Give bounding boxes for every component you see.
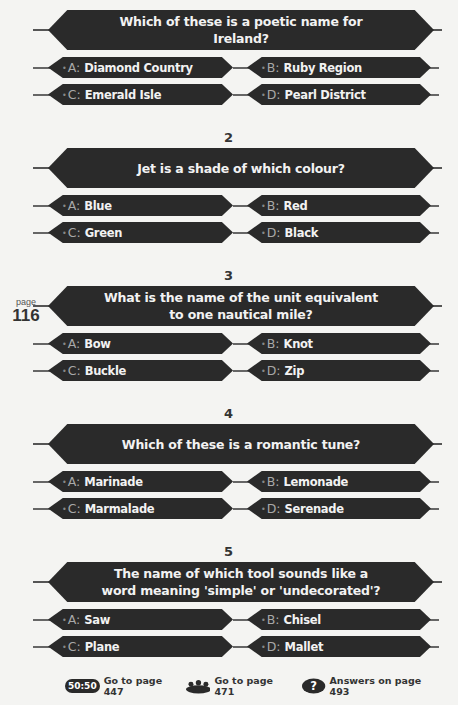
answer-text: Buckle [85,364,126,378]
answer-option-c[interactable]: •C:Marmalade [33,498,239,519]
answer-text: Ruby Region [284,61,362,75]
answer-text: Bow [84,337,110,351]
answer-option-b[interactable]: •B:Red [233,195,439,216]
answer-option-c[interactable]: •C:Plane [33,636,239,657]
question-text: The name of which tool sounds like a wor… [48,565,434,599]
answer-letter: •B: [261,612,280,627]
answer-letter: •C: [62,363,81,378]
answer-option-d[interactable]: •D:Pearl District [233,84,439,105]
question-text: What is the name of the unit equivalent … [48,289,434,323]
question-number: 2 [0,130,458,145]
answer-text: Zip [285,364,305,378]
footer: 50:50 Go to page 447 Go to page 471 ? An… [65,676,445,696]
answer-letter: •D: [261,501,281,516]
answer-text: Knot [284,337,313,351]
audience-icon [186,678,211,694]
question-text: Which of these is a romantic tune? [72,436,410,453]
answer-letter: •B: [261,474,280,489]
answer-option-d[interactable]: •D:Zip [233,360,439,381]
question-number: 5 [0,544,458,559]
question-number: 4 [0,406,458,421]
answer-text: Blue [84,199,112,213]
answer-letter: •A: [62,60,80,75]
answer-letter: •D: [261,639,281,654]
answers-text: Answers on page 493 [330,675,425,697]
answer-option-b[interactable]: •B:Lemonade [233,471,439,492]
question-text: Which of these is a poetic name for Irel… [48,13,434,47]
question-banner: Which of these is a romantic tune? [33,424,442,464]
answer-option-b[interactable]: •B:Ruby Region [233,57,439,78]
answer-option-b[interactable]: •B:Chisel [233,609,439,630]
question-number: 3 [0,268,458,283]
answer-letter: •C: [62,87,81,102]
answer-option-b[interactable]: •B:Knot [233,333,439,354]
answer-text: Saw [84,613,110,627]
question-banner: Jet is a shade of which colour? [33,148,442,188]
answer-letter: •D: [261,87,281,102]
ask-audience-lifeline: Go to page 471 [186,675,283,697]
answer-text: Diamond Country [84,61,192,75]
svg-text:?: ? [311,679,318,693]
question-text: Jet is a shade of which colour? [87,160,395,177]
answer-text: Plane [85,640,120,654]
answer-option-c[interactable]: •C:Green [33,222,239,243]
answer-text: Red [284,199,308,213]
answer-letter: •D: [261,363,281,378]
answer-option-a[interactable]: •A:Marinade [33,471,239,492]
answer-option-a[interactable]: •A:Saw [33,609,239,630]
answer-letter: •A: [62,198,80,213]
answer-letter: •C: [62,225,81,240]
answer-text: Pearl District [285,88,366,102]
answer-text: Marmalade [85,502,155,516]
answer-option-a[interactable]: •A:Blue [33,195,239,216]
answer-letter: •A: [62,474,80,489]
ask-audience-text: Go to page 471 [214,675,282,697]
answer-letter: •C: [62,501,81,516]
answer-letter: •A: [62,336,80,351]
fifty-fifty-text: Go to page 447 [104,675,166,697]
answer-text: Chisel [284,613,321,627]
answer-letter: •B: [261,198,280,213]
answer-option-d[interactable]: •D:Mallet [233,636,439,657]
answer-option-a[interactable]: •A:Bow [33,333,239,354]
answer-text: Mallet [285,640,324,654]
fifty-fifty-icon: 50:50 [65,679,100,693]
answer-letter: •B: [261,336,280,351]
answer-option-a[interactable]: •A:Diamond Country [33,57,239,78]
question-mark-icon: ? [302,677,325,695]
answer-option-c[interactable]: •C:Emerald Isle [33,84,239,105]
answer-text: Emerald Isle [85,88,162,102]
answer-text: Black [285,226,318,240]
answer-letter: •D: [261,225,281,240]
answer-text: Lemonade [284,475,349,489]
answer-text: Marinade [84,475,142,489]
answer-letter: •A: [62,612,80,627]
answer-text: Green [85,226,122,240]
answer-text: Serenade [285,502,344,516]
answer-letter: •C: [62,639,81,654]
fifty-fifty-lifeline: 50:50 Go to page 447 [65,675,166,697]
answers-reference: ? Answers on page 493 [302,675,425,697]
question-banner: Which of these is a poetic name for Irel… [33,10,442,50]
answer-option-d[interactable]: •D:Black [233,222,439,243]
answer-option-d[interactable]: •D:Serenade [233,498,439,519]
answer-option-c[interactable]: •C:Buckle [33,360,239,381]
question-banner: What is the name of the unit equivalent … [33,286,442,326]
question-banner: The name of which tool sounds like a wor… [33,562,442,602]
answer-letter: •B: [261,60,280,75]
